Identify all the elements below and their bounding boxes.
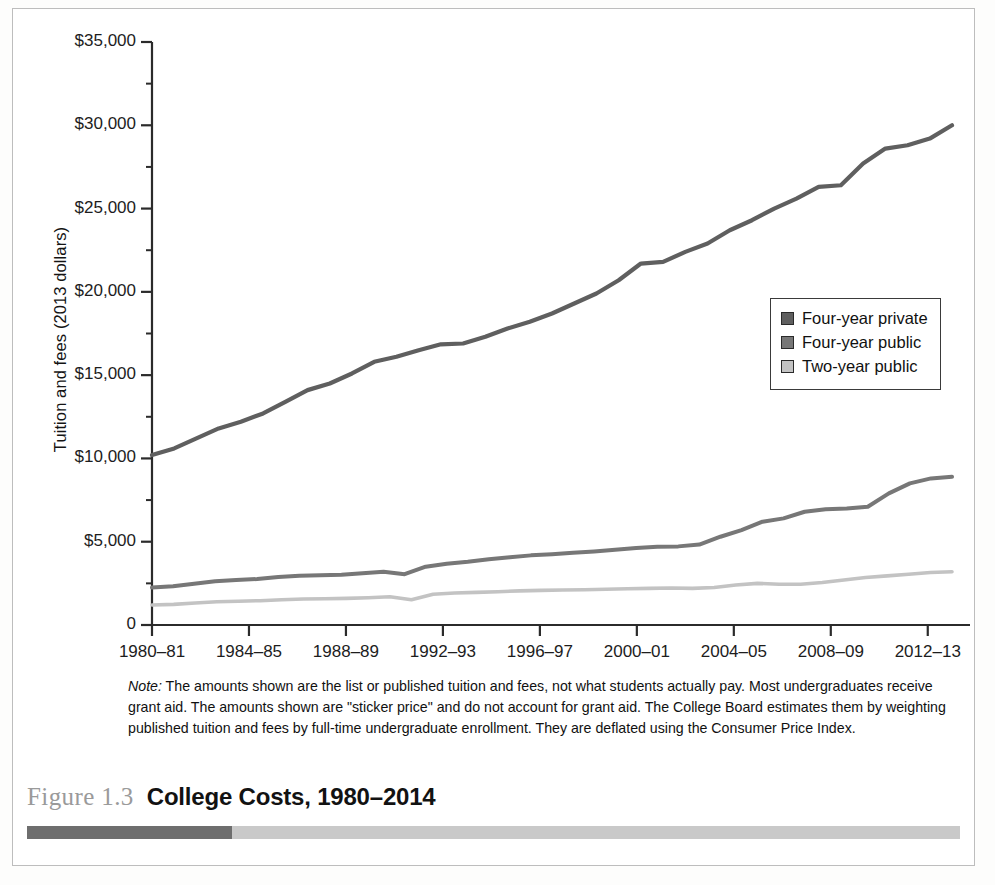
y-tick-label: $15,000 — [75, 364, 136, 384]
accent-bar-light-segment — [232, 826, 960, 839]
legend-item: Four-year public — [781, 333, 928, 352]
note-label: Note: — [128, 678, 162, 694]
caption-accent-bar — [27, 826, 960, 839]
figure-number: Figure 1.3 — [27, 783, 134, 811]
legend-label: Four-year private — [802, 309, 928, 328]
figure-container: Tuition and fees (2013 dollars) 0$5,000$… — [0, 0, 995, 885]
legend-label: Four-year public — [802, 333, 921, 352]
y-tick-label: 0 — [127, 614, 136, 634]
accent-bar-dark-segment — [27, 826, 232, 839]
legend-swatch-icon — [781, 312, 794, 325]
legend-item: Two-year public — [781, 357, 928, 376]
y-tick-label: $25,000 — [75, 198, 136, 218]
legend-swatch-icon — [781, 360, 794, 373]
legend-swatch-icon — [781, 336, 794, 349]
chart-legend: Four-year privateFour-year publicTwo-yea… — [770, 298, 941, 390]
figure-note: Note: The amounts shown are the list or … — [128, 676, 964, 739]
chart-plot-area: Tuition and fees (2013 dollars) 0$5,000$… — [0, 0, 995, 672]
legend-label: Two-year public — [802, 357, 918, 376]
y-tick-label: $10,000 — [75, 447, 136, 467]
y-tick-label: $30,000 — [75, 114, 136, 134]
figure-caption: Figure 1.3 College Costs, 1980–2014 — [27, 783, 435, 811]
y-axis-title: Tuition and fees (2013 dollars) — [51, 130, 70, 550]
y-tick-label: $35,000 — [75, 31, 136, 51]
figure-title: College Costs, 1980–2014 — [147, 783, 436, 811]
y-tick-label: $20,000 — [75, 281, 136, 301]
note-text: The amounts shown are the list or publis… — [128, 678, 946, 736]
y-tick-label: $5,000 — [84, 531, 136, 551]
x-tick-label: 2012–13 — [868, 642, 988, 662]
legend-item: Four-year private — [781, 309, 928, 328]
